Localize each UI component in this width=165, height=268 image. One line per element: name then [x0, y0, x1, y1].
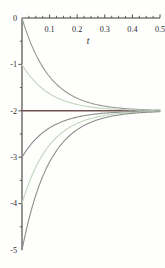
x-tick-label: 0.3 [100, 25, 110, 34]
ode-solutions-plot: 0.10.20.30.40.50-1-2-3-4-5t [0, 0, 165, 268]
x-tick-label: 0.1 [44, 25, 54, 34]
x-tick-label: 0.5 [155, 25, 165, 34]
solution-curve-3 [22, 111, 160, 203]
solution-curve-0 [22, 18, 160, 110]
y-tick-label: -2 [10, 107, 17, 116]
y-tick-label: -5 [10, 246, 17, 255]
x-tick-label: 0.4 [127, 25, 137, 34]
x-axis-title: t [87, 36, 90, 46]
plot-svg: 0.10.20.30.40.50-1-2-3-4-5t [0, 0, 165, 268]
y-tick-label: 0 [13, 14, 17, 23]
y-tick-label: -3 [10, 153, 17, 162]
y-tick-label: -1 [10, 60, 17, 69]
x-tick-label: 0.2 [72, 25, 82, 34]
y-tick-label: -4 [10, 199, 17, 208]
